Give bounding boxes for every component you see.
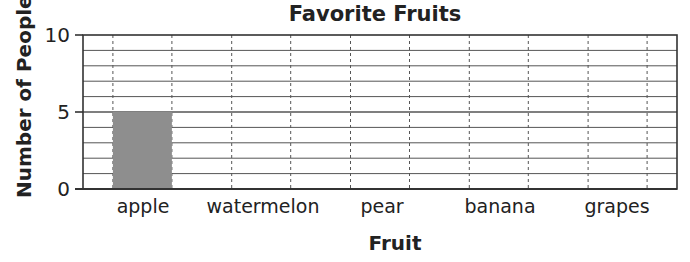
bars bbox=[113, 112, 172, 189]
x-tick-pear: pear bbox=[322, 195, 442, 217]
bar-apple bbox=[113, 112, 172, 189]
x-tick-grapes: grapes bbox=[557, 195, 677, 217]
x-axis-label: Fruit bbox=[340, 231, 450, 255]
grid-lines bbox=[83, 35, 677, 189]
x-tick-apple: apple bbox=[83, 195, 203, 217]
plot-area bbox=[0, 0, 690, 262]
x-tick-banana: banana bbox=[440, 195, 560, 217]
x-tick-watermelon: watermelon bbox=[203, 195, 323, 217]
